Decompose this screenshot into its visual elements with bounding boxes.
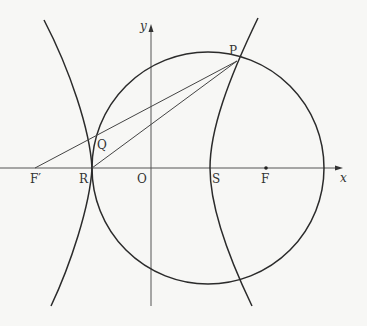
y-axis-arrow-icon [149, 24, 154, 32]
line-r-to-p [92, 61, 237, 168]
x-axis-arrow-icon [335, 166, 343, 171]
focus-f-label: F [261, 172, 269, 186]
y-axis-label: y [139, 19, 147, 33]
point-q-label: Q [97, 138, 107, 152]
focus-fprime-label: F′ [30, 172, 41, 186]
point-s-label: S [212, 172, 220, 186]
focus-f-dot [264, 166, 268, 170]
origin-o-label: O [137, 172, 147, 186]
point-r-label: R [79, 172, 89, 186]
hyperbola-right-branch [210, 18, 258, 306]
diagram-canvas: y x P Q R O S F F′ [0, 0, 367, 326]
point-p-label: P [229, 44, 237, 58]
x-axis-label: x [340, 171, 347, 185]
hyperbola-left-branch [44, 20, 92, 306]
